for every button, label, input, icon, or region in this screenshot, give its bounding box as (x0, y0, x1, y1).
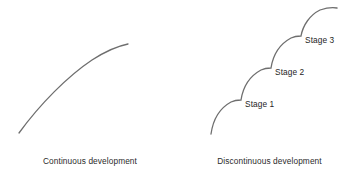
stage-label-1: Stage 1 (245, 99, 274, 109)
development-curves-figure: Continuous development Stage 1 Stage 2 S… (0, 0, 359, 179)
panel-discontinuous-development: Stage 1 Stage 2 Stage 3 Discontinuous de… (180, 0, 359, 179)
caption-continuous-development: Continuous development (0, 156, 180, 166)
caption-discontinuous-development: Discontinuous development (180, 156, 359, 166)
stage-label-3: Stage 3 (305, 35, 334, 45)
stage-label-2: Stage 2 (275, 67, 304, 77)
panel-continuous-development: Continuous development (0, 0, 180, 179)
